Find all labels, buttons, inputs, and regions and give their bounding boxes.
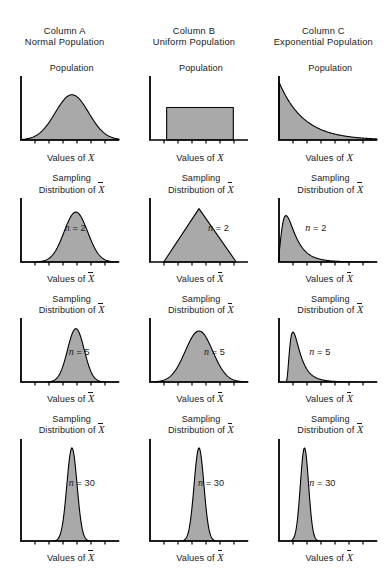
column-headers: Column ANormal PopulationColumn BUniform… [0, 26, 388, 49]
panel-title-line: Sampling [279, 173, 381, 184]
panel-row-1: SamplingDistribution of Xn = 2Values of … [0, 173, 388, 284]
panel-cell: SamplingDistribution of Xn = 30Values of… [0, 414, 129, 563]
sample-size-label: n = 5 [309, 346, 330, 357]
panel-title: SamplingDistribution of X [7, 294, 123, 316]
x-axis-label: Values of X [136, 152, 252, 164]
n-symbol: n [309, 477, 314, 488]
x-bar-symbol: X [98, 185, 104, 195]
column-header-line1: Column B [129, 26, 258, 37]
panel-title-line: Sampling [279, 414, 381, 425]
density-curve [279, 332, 377, 382]
density-curve [150, 447, 248, 540]
panel-title: SamplingDistribution of X [7, 173, 123, 195]
panel-grid: PopulationValues of XPopulationValues of… [0, 52, 388, 564]
density-curve [164, 208, 237, 261]
panel-title: Population [265, 52, 381, 74]
x-axis-label: Values of X [265, 152, 381, 164]
x-symbol: X [217, 152, 223, 163]
plot-area: n = 30 [136, 437, 252, 553]
plot-area: n = 5 [136, 316, 252, 394]
distribution-panel: SamplingDistribution of Xn = 30Values of… [136, 414, 252, 563]
x-axis-label: Values of X [265, 394, 381, 405]
plot-area [7, 74, 123, 152]
sample-size-label: n = 30 [69, 477, 95, 488]
panel-cell: SamplingDistribution of Xn = 30Values of… [259, 414, 388, 563]
panel-title-line: Population [21, 63, 123, 74]
distribution-panel: PopulationValues of X [136, 52, 252, 164]
x-bar-symbol: X [228, 425, 234, 435]
panel-title-line: Sampling [21, 173, 123, 184]
sample-size-label: n = 2 [208, 222, 229, 233]
density-curve [279, 448, 377, 541]
sample-size-label: n = 30 [309, 477, 335, 488]
n-symbol: n [204, 346, 209, 357]
x-axis-label: Values of X [136, 553, 252, 564]
distribution-panel: SamplingDistribution of Xn = 30Values of… [7, 414, 123, 563]
x-bar-symbol: X [228, 305, 234, 315]
panel-title-line: Population [279, 63, 381, 74]
x-axis-label: Values of X [136, 394, 252, 405]
panel-title-line: Distribution of X [150, 305, 252, 316]
panel-cell: SamplingDistribution of Xn = 5Values of … [259, 294, 388, 405]
panel-row-2: SamplingDistribution of Xn = 5Values of … [0, 294, 388, 405]
density-curve [167, 108, 234, 140]
x-axis-label: Values of X [265, 553, 381, 564]
x-axis-label: Values of X [7, 274, 123, 285]
panel-row-0: PopulationValues of XPopulationValues of… [0, 52, 388, 164]
panel-title-line: Distribution of X [21, 305, 123, 316]
column-header-line1: Column C [259, 26, 388, 37]
column-header-line2: Uniform Population [129, 37, 258, 48]
panel-title-line: Distribution of X [150, 425, 252, 436]
x-axis-label: Values of X [136, 274, 252, 285]
panel-cell: PopulationValues of X [259, 52, 388, 164]
panel-title: SamplingDistribution of X [7, 414, 123, 436]
n-symbol: n [208, 222, 213, 233]
x-bar-symbol: X [357, 305, 363, 315]
n-symbol: n [69, 346, 74, 357]
x-symbol: X [347, 152, 353, 163]
plot-area: n = 30 [265, 437, 381, 553]
panel-title-line: Distribution of X [279, 305, 381, 316]
column-header-line1: Column A [0, 26, 129, 37]
distribution-panel: SamplingDistribution of Xn = 2Values of … [136, 173, 252, 284]
column-header-b: Column BUniform Population [129, 26, 258, 49]
panel-title: SamplingDistribution of X [136, 294, 252, 316]
distribution-panel: SamplingDistribution of Xn = 5Values of … [265, 294, 381, 405]
x-axis-label: Values of X [7, 553, 123, 564]
density-curve [150, 331, 248, 382]
panel-title-line: Sampling [279, 294, 381, 305]
distribution-panel: PopulationValues of X [265, 52, 381, 164]
x-bar-symbol: X [228, 185, 234, 195]
distribution-panel: SamplingDistribution of Xn = 5Values of … [7, 294, 123, 405]
x-bar-symbol: X [98, 305, 104, 315]
sample-size-label: n = 30 [198, 477, 224, 488]
sample-size-label: n = 2 [305, 222, 326, 233]
x-bar-symbol: X [347, 394, 353, 404]
plot-area: n = 30 [7, 437, 123, 553]
panel-cell: SamplingDistribution of Xn = 2Values of … [0, 173, 129, 284]
x-bar-symbol: X [88, 553, 94, 563]
panel-title-line: Sampling [21, 294, 123, 305]
panel-title: SamplingDistribution of X [265, 414, 381, 436]
x-bar-symbol: X [217, 394, 223, 404]
distribution-panel: SamplingDistribution of Xn = 2Values of … [7, 173, 123, 284]
density-curve [279, 215, 377, 261]
plot-area: n = 2 [265, 196, 381, 274]
column-header-c: Column CExponential Population [259, 26, 388, 49]
x-axis-label: Values of X [7, 394, 123, 405]
density-curve [21, 95, 119, 140]
distribution-panel: SamplingDistribution of Xn = 2Values of … [265, 173, 381, 284]
panel-cell: SamplingDistribution of Xn = 30Values of… [129, 414, 258, 563]
x-axis-label: Values of X [265, 274, 381, 285]
plot-area: n = 5 [265, 316, 381, 394]
distribution-panel: SamplingDistribution of Xn = 5Values of … [136, 294, 252, 405]
panel-title-line: Sampling [150, 414, 252, 425]
plot-area [136, 74, 252, 152]
x-bar-symbol: X [357, 185, 363, 195]
n-symbol: n [69, 477, 74, 488]
panel-title: SamplingDistribution of X [136, 414, 252, 436]
panel-title-line: Distribution of X [21, 185, 123, 196]
panel-title: Population [136, 52, 252, 74]
sample-size-label: n = 5 [204, 346, 225, 357]
panel-title-line: Distribution of X [21, 425, 123, 436]
